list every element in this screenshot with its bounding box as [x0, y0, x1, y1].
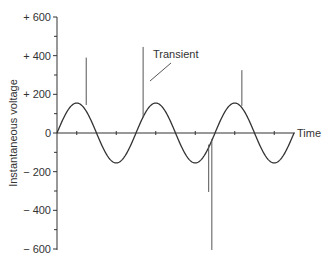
y-axis-title: Instantaneous voltage [7, 79, 19, 187]
y-tick-label: − 400 [23, 204, 51, 216]
x-axis-title: Time [297, 127, 321, 139]
y-tick-label: + 400 [23, 50, 51, 62]
transient-annotation-label: Transient [153, 48, 198, 60]
y-tick-label: + 200 [23, 88, 51, 100]
y-tick-label: + 600 [23, 11, 51, 23]
y-axis: + 600+ 400+ 2000− 200− 400− 600 [23, 11, 57, 255]
chart: + 600+ 400+ 2000− 200− 400− 600 Time Ins… [0, 0, 333, 267]
y-tick-label: − 600 [23, 243, 51, 255]
transient-annotation-leader [150, 63, 171, 81]
transients [86, 47, 242, 250]
y-tick-label: − 200 [23, 166, 51, 178]
y-tick-label: 0 [45, 127, 51, 139]
